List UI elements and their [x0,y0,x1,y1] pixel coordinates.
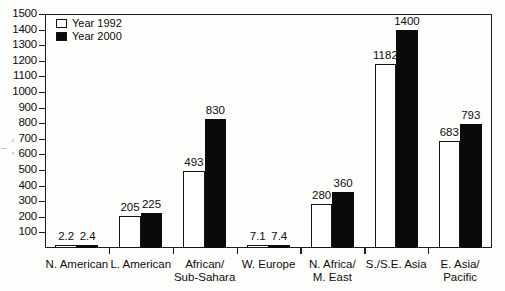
y-axis-tick-label: 1500 [3,8,37,20]
y-axis-tick-label: 300 [3,195,37,207]
y-axis-tick-label: 600 [3,148,37,160]
bar-value-label: 793 [449,110,493,122]
y-axis-tick-label: 400 [3,180,37,192]
x-axis-category-label: E. Asia/Pacific [422,258,498,284]
x-axis-group-separator [237,248,238,254]
bar-year-2000 [332,192,354,248]
y-axis-tick-label: 1200 [3,55,37,67]
y-axis-tick-label: 1100 [3,70,37,82]
bar-year-2000 [77,245,99,248]
bar-year-2000 [396,30,418,248]
category-label-line: Pacific [422,271,498,284]
y-axis-tick-label: 800 [3,117,37,129]
y-axis-tick-label: 1000 [3,86,37,98]
bar-year-1992 [311,204,333,248]
x-axis-group-separator [364,248,365,254]
bar-value-label: 360 [321,178,365,190]
bar-year-2000 [269,245,291,248]
bar-value-label: 7.4 [258,231,302,243]
y-axis-tick-label: 200 [3,211,37,223]
bar-year-1992 [183,171,205,248]
legend-label: Year 1992 [72,18,122,29]
y-axis-tick-label: 900 [3,102,37,114]
legend-label: Year 2000 [72,31,122,42]
legend-swatch-white-square [56,19,67,28]
bar-year-1992 [55,245,77,248]
bar-year-1992 [119,216,141,248]
bar-value-label: 830 [194,105,238,117]
y-axis-tick-label: 100 [3,226,37,238]
category-label-line: Sub-Sahara [167,271,243,284]
legend-swatch-black-square [56,32,67,41]
bar-year-2000 [205,119,227,248]
bar-year-1992 [439,141,461,248]
bar-chart: 1002003004005006007008009001000110012001… [0,0,505,291]
bar-year-1992 [247,245,269,248]
bar-year-2000 [141,213,163,248]
bar-value-label: 2.4 [66,231,110,243]
bar-value-label: 1400 [385,16,429,28]
legend-item-year-2000: Year 2000 [56,31,122,42]
chart-legend: Year 1992 Year 2000 [56,18,122,44]
legend-item-year-1992: Year 1992 [56,18,122,29]
x-axis-group-separator [109,248,110,254]
y-axis-tick-label: 1300 [3,39,37,51]
category-label-line: M. East [294,271,370,284]
y-axis-tick-label: 700 [3,133,37,145]
bar-value-label: 225 [130,199,174,211]
bar-year-1992 [375,64,397,248]
y-axis-tick-label: 1400 [3,24,37,36]
x-axis-group-separator [173,248,174,254]
category-label-line: E. Asia/ [422,258,498,271]
bar-year-2000 [460,124,482,248]
x-axis-group-separator [300,248,301,254]
y-axis-tick-label: 500 [3,164,37,176]
x-axis-group-separator [428,248,429,254]
